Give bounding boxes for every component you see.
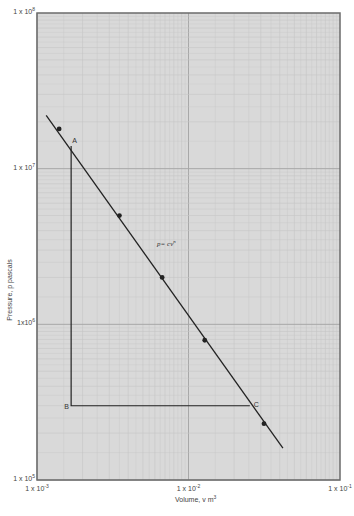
equation-label: p= cvn	[156, 239, 176, 248]
data-point-marker	[160, 275, 165, 280]
point-label-b: B	[64, 403, 69, 410]
data-point-marker	[117, 213, 122, 218]
point-label-a: A	[72, 137, 77, 144]
data-point-marker	[57, 127, 62, 132]
point-label-c: C	[254, 401, 259, 408]
data-point-marker	[202, 338, 207, 343]
x-axis-title: Volume, v m3	[175, 494, 217, 503]
x-tick-label: 1 x 10-3	[25, 483, 49, 492]
y-tick-label: 1 x 107	[13, 162, 35, 171]
y-tick-label: 1 x 108	[13, 6, 35, 15]
x-tick-label: 1 x 10-1	[328, 483, 352, 492]
y-axis-ticks: 1 x 1051x1061 x 1071 x 108	[13, 6, 35, 482]
grid	[37, 13, 340, 480]
pressure-volume-chart: 1 x 1051x1061 x 1071 x 108 1 x 10-31 x 1…	[0, 0, 354, 516]
data-point-marker	[262, 421, 267, 426]
y-axis-title: Pressure, p pascals	[6, 259, 14, 321]
y-tick-label: 1 x 105	[13, 473, 35, 482]
x-axis-ticks: 1 x 10-31 x 10-21 x 10-1	[25, 483, 352, 492]
y-tick-label: 1x106	[17, 317, 35, 326]
x-tick-label: 1 x 10-2	[177, 483, 201, 492]
